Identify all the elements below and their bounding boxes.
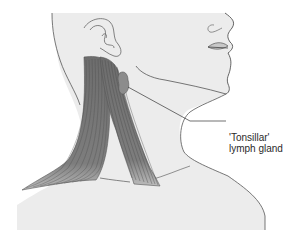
neck-anatomy-drawing xyxy=(0,0,293,232)
annotation-label-tonsillar: 'Tonsillar' xyxy=(229,132,270,143)
tonsillar-lymph-gland xyxy=(118,72,129,94)
anatomy-illustration: 'Tonsillar' lymph gland xyxy=(0,0,293,232)
annotation-label-lymph-gland: lymph gland xyxy=(229,143,283,154)
